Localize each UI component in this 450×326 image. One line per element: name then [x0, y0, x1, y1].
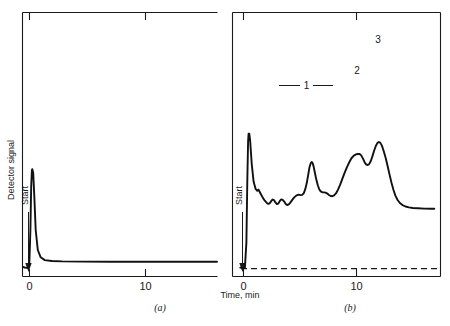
peak-label-3: 3: [375, 34, 381, 45]
start-label-a: Start: [20, 185, 30, 205]
panel-a-tick-label-0: 0: [26, 280, 32, 292]
yaxis-label: Detector signal: [6, 140, 16, 200]
panel-a-xaxis-ticks: [30, 13, 146, 278]
panel-a-caption: (a): [154, 302, 166, 314]
chromatogram-figure: 0 10 Start (a) Detector signal 0 10: [0, 0, 450, 326]
panel-b-tick-label-10: 10: [350, 280, 362, 292]
panel-a-tick-label-10: 10: [139, 280, 151, 292]
panel-a-frame: [23, 13, 218, 277]
panel-a: 0 10 Start (a): [20, 13, 218, 315]
detector-trace-b: [240, 134, 434, 269]
xaxis-label: Time, min: [220, 290, 259, 300]
panel-b-frame: [233, 13, 441, 277]
panel-b: 0 10 Start 1 2 3 (b): [233, 13, 441, 315]
panel-b-xaxis-ticks: [244, 13, 357, 278]
start-label-b: Start: [234, 185, 244, 205]
peak-label-1: 1: [304, 80, 310, 91]
panel-b-caption: (b): [344, 302, 356, 314]
peak-label-2: 2: [354, 65, 360, 76]
detector-trace-a: [23, 169, 217, 268]
panel-b-start-annotation: Start: [234, 185, 246, 272]
peak-label-1-group: 1: [279, 80, 333, 91]
